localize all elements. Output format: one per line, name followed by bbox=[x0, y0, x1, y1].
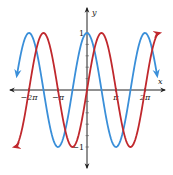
chart: −2π−ππ2π 1−1 x y bbox=[0, 0, 173, 175]
y-axis-label: y bbox=[91, 8, 97, 17]
y-tick-label: −1 bbox=[72, 143, 84, 152]
x-axis-label: x bbox=[158, 77, 163, 86]
x-tick-label: −2π bbox=[20, 93, 38, 102]
